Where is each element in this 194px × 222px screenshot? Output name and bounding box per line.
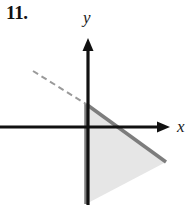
x-axis-label: x bbox=[177, 118, 185, 135]
graph-figure: 11. y x bbox=[0, 0, 194, 222]
coordinate-plane-svg bbox=[0, 0, 194, 222]
x-axis-arrowhead bbox=[157, 122, 170, 133]
y-axis-arrowhead bbox=[83, 38, 94, 51]
y-axis-label: y bbox=[83, 9, 91, 26]
dashed-extension-line bbox=[33, 71, 86, 104]
